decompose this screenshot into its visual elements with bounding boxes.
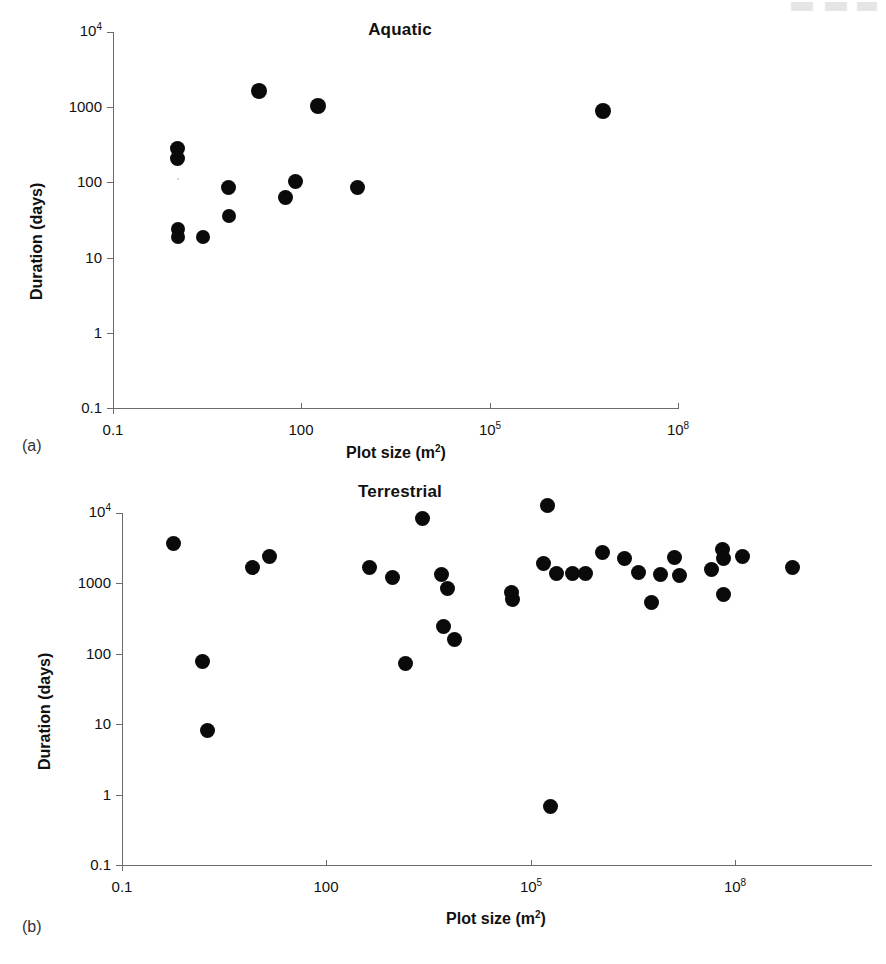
panel-b-data-point	[385, 570, 400, 585]
panel-b-y-tick-100	[116, 654, 122, 655]
panel-b-data-point	[578, 566, 593, 581]
panel-a-x-tick-1e5	[490, 403, 491, 409]
panel-b-x-tick-0.1	[122, 865, 123, 871]
panel-a-title: Aquatic	[300, 20, 500, 40]
panel-b-data-point	[653, 567, 668, 582]
panel-b-data-point	[595, 545, 610, 560]
panel-b-y-label-100: 100	[45, 645, 111, 662]
panel-a-y-label-1: 1	[36, 324, 102, 341]
panel-b-data-point	[631, 565, 646, 580]
panel-a-x-label-0.1: 0.1	[83, 421, 143, 438]
panel-b-data-point	[415, 511, 430, 526]
panel-a-x-label-1e8: 108	[648, 421, 708, 438]
panel-b-x-tick-100	[326, 860, 327, 866]
panel-b-y-label-0.1: 0.1	[45, 856, 111, 873]
panel-a-data-point	[595, 103, 611, 119]
panel-a-x-label-100: 100	[271, 421, 331, 438]
panel-b-y-tick-1	[116, 795, 122, 796]
panel-a-data-point	[222, 209, 236, 223]
panel-a-x-tick-1e8	[678, 403, 679, 409]
panel-b-data-point	[543, 799, 558, 814]
panel-b-x-axis-line	[122, 865, 872, 866]
panel-b-x-tick-1e5	[531, 860, 532, 866]
panel-b-data-point	[398, 656, 413, 671]
panel-b-y-tick-10000	[116, 513, 122, 514]
panel-b-y-tick-1000	[116, 583, 122, 584]
panel-b-data-point	[540, 498, 555, 513]
panel-b-data-point	[440, 581, 455, 596]
panel-b-data-point	[195, 654, 210, 669]
panel-b-data-point	[704, 562, 719, 577]
panel-a-data-point	[196, 230, 210, 244]
panel-b-y-label-1: 1	[45, 786, 111, 803]
panel-a-y-tick-10	[107, 258, 113, 259]
panel-b-data-point	[436, 619, 451, 634]
panel-b-data-point	[447, 632, 462, 647]
panel-a-label: (a)	[22, 437, 42, 455]
panel-b-x-label-1e8: 108	[705, 878, 765, 895]
panel-b-y-axis-line	[122, 513, 123, 865]
panel-a-data-point	[221, 180, 236, 195]
panel-a-speck	[177, 178, 179, 180]
panel-b-y-label-10000: 104	[45, 503, 111, 520]
panel-b-data-point	[166, 536, 181, 551]
panel-aquatic: Aquatic 104 1000 100 10 1 0.1 0.1 100 10…	[0, 0, 886, 470]
panel-a-x-axis-title: Plot size (m2)	[296, 444, 496, 462]
panel-b-data-point	[672, 568, 687, 583]
panel-a-x-label-1e5: 105	[460, 421, 520, 438]
panel-b-data-point	[667, 550, 682, 565]
panel-a-data-point	[251, 83, 267, 99]
panel-a-data-point	[310, 98, 326, 114]
panel-b-x-label-0.1: 0.1	[92, 878, 152, 895]
panel-a-data-point	[288, 174, 303, 189]
panel-b-data-point	[536, 556, 551, 571]
panel-b-data-point	[716, 587, 731, 602]
panel-b-y-label-10: 10	[45, 715, 111, 732]
panel-b-label: (b)	[22, 918, 42, 936]
panel-b-data-point	[245, 560, 260, 575]
panel-a-data-point	[278, 190, 293, 205]
panel-b-data-point	[200, 723, 215, 738]
panel-a-data-point	[350, 180, 365, 195]
panel-a-y-tick-10000	[107, 32, 113, 33]
panel-b-data-point	[505, 592, 520, 607]
panel-terrestrial: Terrestrial 104 1000 100 10 1 0.1 0.1 10…	[0, 470, 886, 964]
panel-b-title: Terrestrial	[300, 482, 500, 502]
panel-b-data-point	[644, 595, 659, 610]
panel-a-y-axis-line	[113, 32, 114, 408]
panel-b-x-label-100: 100	[296, 878, 356, 895]
panel-b-data-point	[617, 551, 632, 566]
panel-b-data-point	[362, 560, 377, 575]
panel-a-y-label-0.1: 0.1	[36, 399, 102, 416]
panel-b-y-tick-10	[116, 724, 122, 725]
panel-b-data-point	[735, 549, 750, 564]
panel-b-y-label-1000: 1000	[45, 574, 111, 591]
panel-a-y-tick-1000	[107, 107, 113, 108]
panel-b-data-point	[716, 551, 731, 566]
panel-a-x-tick-100	[301, 403, 302, 409]
panel-b-x-axis-title: Plot size (m2)	[396, 910, 596, 928]
panel-b-data-point	[262, 549, 277, 564]
panel-a-data-point	[170, 151, 185, 166]
panel-a-x-axis-line	[113, 408, 679, 409]
panel-b-x-tick-1e8	[735, 860, 736, 866]
panel-a-y-tick-100	[107, 182, 113, 183]
panel-a-x-tick-0.1	[113, 408, 114, 414]
panel-a-y-label-10000: 104	[36, 22, 102, 39]
panel-b-data-point	[434, 567, 449, 582]
panel-b-x-label-1e5: 105	[501, 878, 561, 895]
figure-container: Aquatic 104 1000 100 10 1 0.1 0.1 100 10…	[0, 0, 886, 964]
panel-a-y-axis-title: Duration (days)	[28, 100, 46, 300]
panel-b-data-point	[785, 560, 800, 575]
panel-a-data-point	[171, 230, 185, 244]
panel-a-y-tick-1	[107, 333, 113, 334]
panel-b-y-axis-title: Duration (days)	[36, 570, 54, 770]
panel-b-data-point	[549, 566, 564, 581]
